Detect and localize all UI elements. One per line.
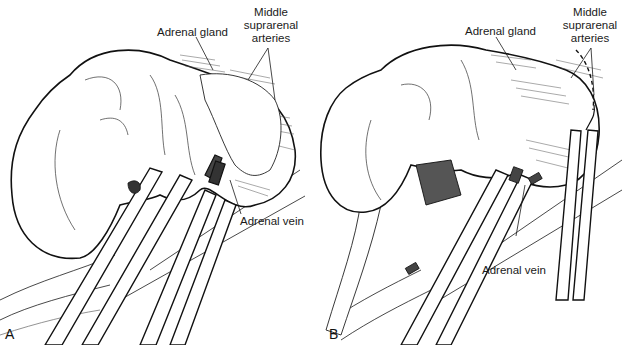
kidney: [321, 45, 599, 212]
label-adrenal-gland: Adrenal gland: [465, 25, 536, 38]
label-line-arteries: arteries: [559, 32, 621, 45]
ureter: [326, 200, 381, 335]
label-line-arteries: arteries: [240, 32, 302, 45]
panel-b: Adrenal gland Middle suprarenal arteries…: [311, 0, 622, 345]
panel-a: Adrenal gland Middle suprarenal arteries…: [0, 0, 310, 345]
label-line-middle: Middle: [559, 6, 621, 19]
label-adrenal-vein: Adrenal vein: [482, 264, 546, 277]
label-adrenal-vein: Adrenal vein: [240, 215, 304, 228]
label-line-suprarenal: suprarenal: [240, 19, 302, 32]
label-line-suprarenal: suprarenal: [559, 19, 621, 32]
panel-a-illustration: [0, 0, 310, 345]
label-line-middle: Middle: [240, 6, 302, 19]
panel-b-illustration: [311, 0, 622, 345]
label-middle-suprarenal-arteries: Middle suprarenal arteries: [559, 6, 621, 45]
panel-letter-b: B: [329, 326, 338, 342]
label-adrenal-gland: Adrenal gland: [157, 26, 228, 39]
panel-letter-a: A: [5, 326, 14, 342]
label-middle-suprarenal-arteries: Middle suprarenal arteries: [240, 6, 302, 45]
